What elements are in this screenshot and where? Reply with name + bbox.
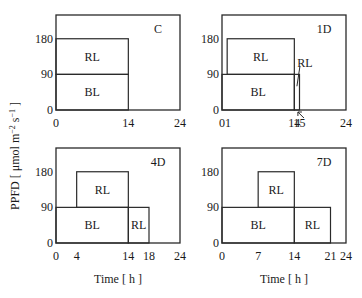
y-tick-label: 0: [47, 103, 53, 117]
x-tick-label: 24: [340, 249, 352, 263]
y-tick-label: 180: [201, 165, 219, 179]
y-tick-label: 0: [213, 236, 219, 250]
y-tick-label: 90: [207, 200, 219, 214]
x-tick-label: 18: [143, 249, 155, 263]
block-label: RL: [269, 183, 284, 197]
x-tick-label: 24: [174, 116, 186, 130]
x-tick-label: 24: [174, 249, 186, 263]
panel-7d: 7DBLRLRL09018007142124: [201, 148, 352, 263]
block-label: RL: [84, 50, 99, 64]
x-tick-label: 0: [53, 116, 59, 130]
panel-title: 7D: [317, 155, 332, 169]
panel-4d: 4DBLRLRL09018004141824: [35, 148, 186, 263]
x-axis-label-left: Time [ h ]: [94, 272, 142, 286]
x-tick-label: 0: [53, 249, 59, 263]
x-tick-label: 14: [122, 116, 134, 130]
block-label: RL: [131, 218, 146, 232]
x-axis-label-right: Time [ h ]: [260, 272, 308, 286]
block-label: RL: [253, 50, 268, 64]
x-tick-label: 14: [288, 249, 300, 263]
light-block-rl: [294, 74, 299, 110]
y-tick-label: 180: [201, 32, 219, 46]
block-label: BL: [250, 85, 265, 99]
block-label: RL: [305, 218, 320, 232]
y-tick-label: 90: [41, 200, 53, 214]
y-tick-label: 180: [35, 165, 53, 179]
block-label: BL: [84, 85, 99, 99]
panel-title: 1D: [317, 22, 332, 36]
panel-1d: 1DBLRLRL09018001141524: [201, 15, 352, 130]
light-schedule-figure: PPFD [ μmol m−2 s−1 ] CBLRL090180014241D…: [0, 0, 362, 298]
x-tick-label: 7: [255, 249, 261, 263]
x-tick-label: 21: [325, 249, 337, 263]
block-label: BL: [250, 218, 265, 232]
y-tick-label: 0: [213, 103, 219, 117]
x-tick-label: 0: [219, 249, 225, 263]
block-label: BL: [84, 218, 99, 232]
y-tick-label: 90: [207, 67, 219, 81]
panel-title: 4D: [151, 155, 166, 169]
x-tick-label: 01: [219, 116, 231, 130]
x-tick-label: 15: [294, 116, 306, 130]
y-tick-label: 180: [35, 32, 53, 46]
block-label: RL: [95, 183, 110, 197]
x-tick-label: 14: [122, 249, 134, 263]
panel-c: CBLRL09018001424: [35, 15, 186, 130]
x-tick-label: 4: [74, 249, 80, 263]
panel-title: C: [154, 22, 162, 36]
y-tick-label: 0: [47, 236, 53, 250]
y-tick-label: 90: [41, 67, 53, 81]
x-tick-label: 24: [340, 116, 352, 130]
y-axis-label: PPFD [ μmol m−2 s−1 ]: [8, 102, 23, 210]
